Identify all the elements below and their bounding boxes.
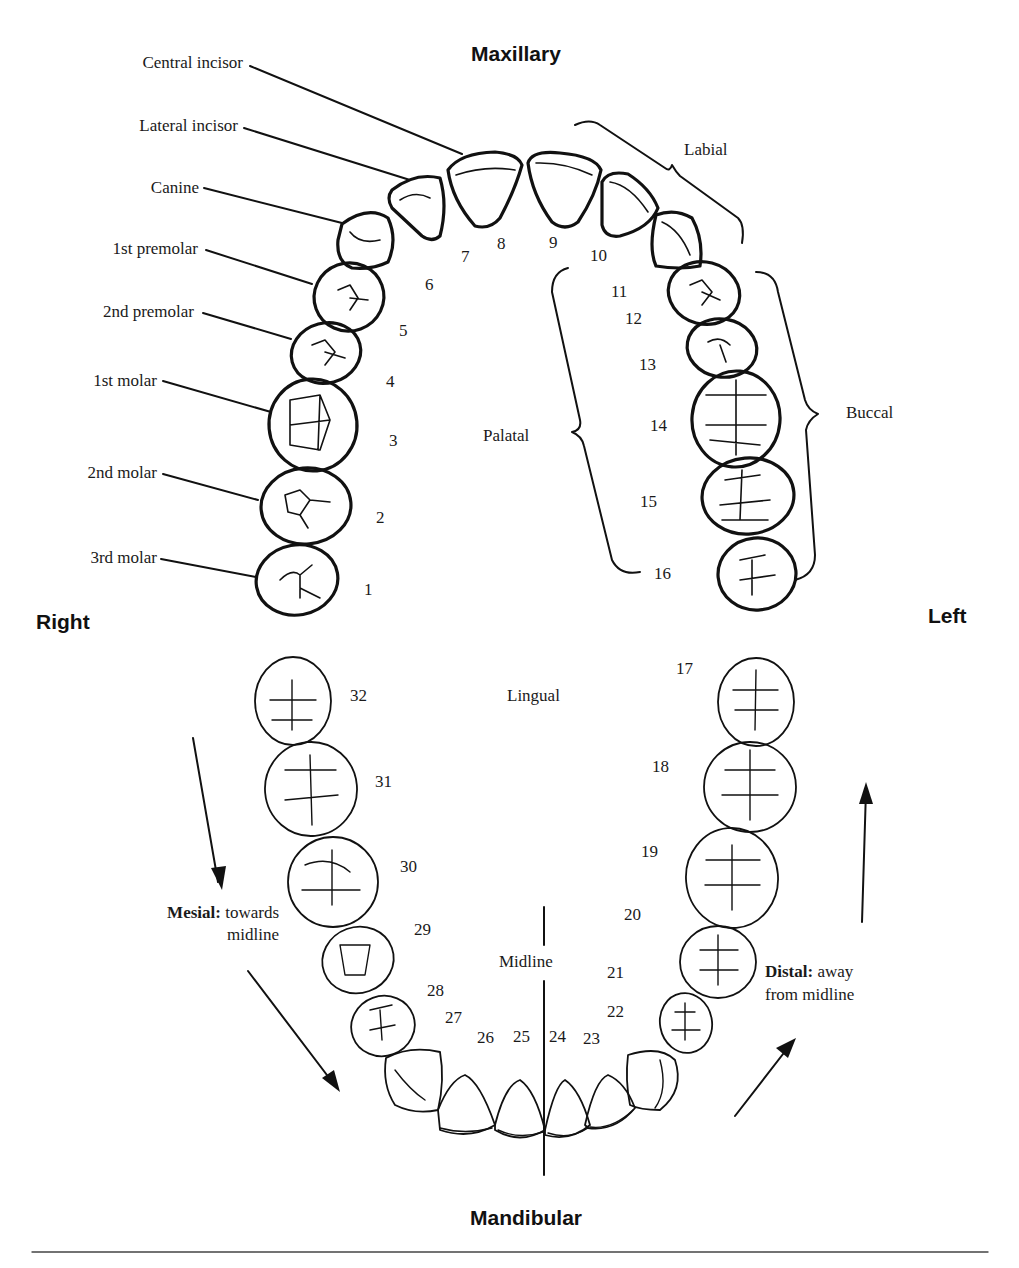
label-midline: Midline — [499, 952, 553, 972]
maxillary-teeth — [251, 152, 799, 622]
heading-mandibular: Mandibular — [470, 1206, 582, 1230]
tooth-number-10: 10 — [590, 246, 607, 266]
tooth-number-30: 30 — [400, 857, 417, 877]
tooth-number-5: 5 — [399, 321, 408, 341]
maxillary-fissures — [280, 163, 775, 598]
tooth-number-2: 2 — [376, 508, 385, 528]
tooth-number-1: 1 — [364, 580, 373, 600]
label-3rd-molar: 3rd molar — [90, 548, 157, 568]
label-palatal: Palatal — [483, 426, 529, 446]
label-lingual: Lingual — [507, 686, 560, 706]
tooth-number-24: 24 — [549, 1027, 566, 1047]
tooth-number-8: 8 — [497, 234, 506, 254]
label-1st-premolar: 1st premolar — [113, 239, 198, 259]
distal-note: Distal: away from midline — [765, 960, 854, 1006]
tooth-number-17: 17 — [676, 659, 693, 679]
heading-left: Left — [928, 604, 967, 628]
tooth-number-26: 26 — [477, 1028, 494, 1048]
tooth-number-16: 16 — [654, 564, 671, 584]
tooth-number-32: 32 — [350, 686, 367, 706]
heading-right: Right — [36, 610, 90, 634]
tooth-number-27: 27 — [445, 1008, 462, 1028]
tooth-number-22: 22 — [607, 1002, 624, 1022]
mandibular-teeth — [255, 657, 796, 1138]
mesial-line2: midline — [227, 925, 279, 944]
mesial-line1: towards — [225, 903, 279, 922]
arrowheads — [211, 782, 873, 1092]
tooth-number-28: 28 — [427, 981, 444, 1001]
tooth-number-21: 21 — [607, 963, 624, 983]
label-1st-molar: 1st molar — [93, 371, 157, 391]
tooth-number-15: 15 — [640, 492, 657, 512]
label-canine: Canine — [151, 178, 199, 198]
tooth-number-29: 29 — [414, 920, 431, 940]
tooth-number-31: 31 — [375, 772, 392, 792]
tooth-number-4: 4 — [386, 372, 395, 392]
label-central-incisor: Central incisor — [142, 53, 243, 73]
label-buccal: Buccal — [846, 403, 893, 423]
tooth-number-3: 3 — [389, 431, 398, 451]
label-2nd-molar: 2nd molar — [88, 463, 157, 483]
label-labial: Labial — [684, 140, 727, 160]
surface-braces — [552, 122, 818, 581]
distal-term: Distal: — [765, 962, 813, 981]
tooth-number-12: 12 — [625, 309, 642, 329]
mandibular-fissures — [270, 670, 778, 1136]
tooth-number-20: 20 — [624, 905, 641, 925]
distal-line2: from midline — [765, 985, 854, 1004]
tooth-number-9: 9 — [549, 233, 558, 253]
tooth-number-6: 6 — [425, 275, 434, 295]
tooth-number-14: 14 — [650, 416, 667, 436]
tooth-number-23: 23 — [583, 1029, 600, 1049]
mesial-term: Mesial: — [167, 903, 221, 922]
tooth-number-11: 11 — [611, 282, 627, 302]
dental-chart: Maxillary Mandibular Right Left Central … — [0, 0, 1019, 1268]
tooth-number-13: 13 — [639, 355, 656, 375]
tooth-number-25: 25 — [513, 1027, 530, 1047]
distal-line1: away — [817, 962, 853, 981]
tooth-number-7: 7 — [461, 247, 470, 267]
mesial-note: Mesial: towards midline — [167, 902, 279, 946]
heading-maxillary: Maxillary — [471, 42, 561, 66]
tooth-number-19: 19 — [641, 842, 658, 862]
label-lateral-incisor: Lateral incisor — [139, 116, 238, 136]
tooth-number-18: 18 — [652, 757, 669, 777]
label-2nd-premolar: 2nd premolar — [103, 302, 194, 322]
